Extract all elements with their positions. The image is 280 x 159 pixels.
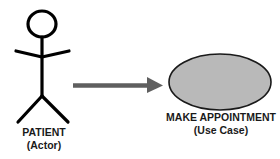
actor-head xyxy=(28,11,56,37)
actor-left-arm xyxy=(16,51,42,57)
actor-name-label: PATIENT xyxy=(22,126,66,138)
use-case-name-label: MAKE APPOINTMENT xyxy=(166,111,276,123)
arrow-right-icon xyxy=(73,77,163,93)
use-case-kind-label: (Use Case) xyxy=(194,124,248,136)
actor-role-label: (Actor) xyxy=(27,139,61,151)
actor-right-leg xyxy=(42,96,68,122)
actor-left-leg xyxy=(18,96,42,122)
association-arrowhead xyxy=(147,77,163,93)
actor-right-arm xyxy=(42,51,69,57)
use-case-ellipse xyxy=(169,54,271,110)
stick-figure-icon xyxy=(16,11,69,122)
use-case-diagram: PATIENT (Actor) MAKE APPOINTMENT (Use Ca… xyxy=(0,0,280,159)
